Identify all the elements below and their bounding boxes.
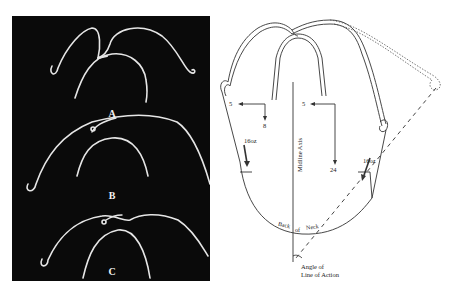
midline-axis-label: Midline Axis	[296, 138, 303, 172]
facebow-photos	[12, 16, 210, 281]
right-horizontal-force-label: 5	[302, 100, 305, 107]
left-horizontal-force-label: 5	[229, 100, 232, 107]
left-strap-force-label: 16oz	[244, 137, 257, 144]
right-strap-force-label: 16oz	[363, 157, 376, 164]
force-diagram: 5 8 5 24 16oz 16oz Midline Axis Back of …	[210, 0, 449, 291]
photo-panel: A B C	[12, 16, 210, 281]
right-vertical-force-label: 24	[330, 166, 337, 173]
back-of-neck-label-2: of	[295, 227, 300, 233]
panel-label-b: B	[109, 190, 116, 201]
panel-label-a: A	[108, 108, 115, 119]
left-vertical-force-label: 8	[263, 122, 266, 129]
force-diagram-lines	[210, 0, 449, 291]
angle-of-line-of-action-label-2: Line of Action	[301, 271, 339, 278]
panel-label-c: C	[108, 266, 115, 277]
angle-of-line-of-action-label-1: Angle of	[301, 263, 324, 270]
